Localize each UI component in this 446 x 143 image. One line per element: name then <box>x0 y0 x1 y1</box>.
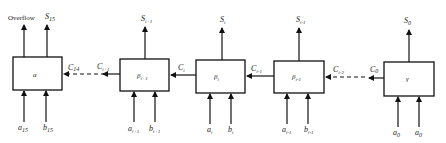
block-alpha <box>13 57 62 90</box>
bim1-label: bi-1 <box>304 125 314 135</box>
ai1-label: ai+1 <box>128 124 139 134</box>
bi-label: bi <box>228 125 234 135</box>
s15-label: S15 <box>45 12 55 22</box>
c14-label: C14 <box>68 63 79 72</box>
c0-label: C0 <box>370 65 378 74</box>
block-beta-i <box>196 60 245 93</box>
si-label: Si <box>220 15 226 25</box>
block-alpha-label: α <box>33 71 37 79</box>
ai-label: ai <box>207 125 213 135</box>
sim1-label: Si-1 <box>296 15 306 25</box>
ci-label: Ci <box>178 63 185 73</box>
si1-label: Si+1 <box>141 14 152 24</box>
b15-label: b15 <box>43 123 53 133</box>
block-beta-i1 <box>120 59 169 91</box>
ci1-label: Ci+1 <box>97 62 110 72</box>
s0-label: S0 <box>404 16 411 26</box>
adder-diagram: α βi+1 βi βi-1 γ Overflow S15 Si+1 Si Si… <box>0 0 446 143</box>
cim1-label: Ci-1 <box>251 64 262 74</box>
bi1-label: bi+1 <box>149 124 160 134</box>
block-gamma-label: γ <box>406 75 409 83</box>
a15-label: a15 <box>18 123 28 133</box>
block-gamma <box>384 62 434 96</box>
cim2-label: Ci-2 <box>333 65 344 75</box>
overflow-label: Overflow <box>8 14 36 22</box>
aim1-label: ai-1 <box>282 125 292 135</box>
a0-label: a0 <box>393 128 400 138</box>
a0b-label: a0 <box>415 128 422 138</box>
